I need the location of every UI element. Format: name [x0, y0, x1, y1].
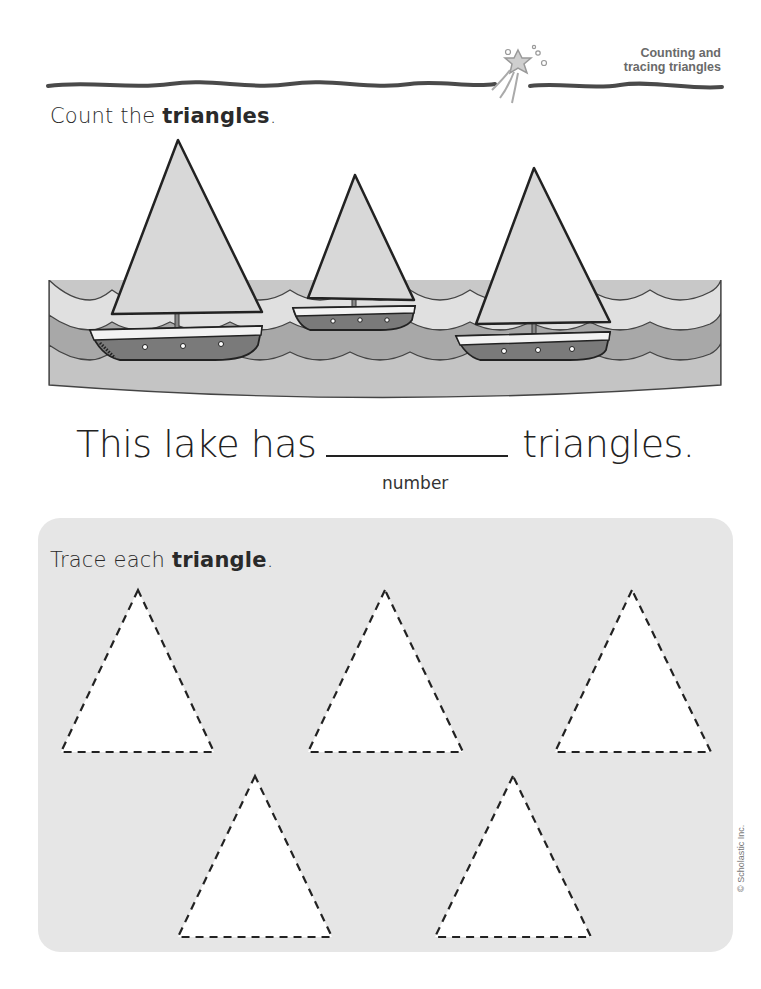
trace-triangle-4[interactable]	[178, 776, 332, 937]
trace-triangle-1[interactable]	[61, 590, 214, 752]
copyright-notice: © Scholastic Inc.	[736, 825, 746, 892]
trace-triangle-2[interactable]	[308, 590, 463, 752]
trace-triangles	[0, 0, 761, 989]
trace-triangle-5[interactable]	[435, 776, 591, 937]
trace-triangle-3[interactable]	[555, 590, 711, 752]
